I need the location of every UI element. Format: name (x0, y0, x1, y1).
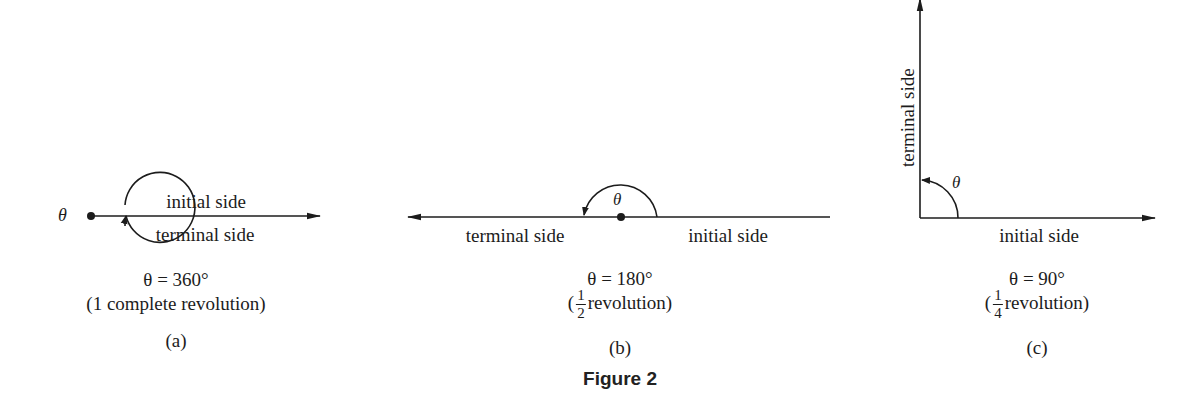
figure-title: Figure 2 (583, 368, 657, 390)
angle-equation: θ = 180° (587, 269, 652, 288)
theta-symbol: θ (613, 191, 621, 208)
vertex-dot (87, 212, 95, 220)
terminal-side-label: terminal side (156, 225, 255, 244)
terminal-side-label: terminal side (898, 68, 917, 167)
angle-description: (12revolution) (568, 288, 672, 321)
rotation-arrowhead (125, 216, 126, 226)
angle-equation: θ = 360° (143, 270, 208, 289)
theta-symbol: θ (58, 206, 67, 224)
initial-side-label: initial side (688, 226, 768, 245)
vertex-dot (617, 213, 625, 221)
initial-side-label: initial side (999, 226, 1079, 245)
angle-equation: θ = 90° (1009, 269, 1065, 288)
initial-side-label: initial side (166, 192, 246, 211)
figure-canvas: θ initial side terminal side θ = 360° (1… (0, 0, 1204, 411)
panel-caption: (b) (609, 338, 631, 357)
angle-description: (1 complete revolution) (86, 294, 265, 313)
panel-caption: (c) (1026, 338, 1047, 357)
angle-description: (14revolution) (985, 288, 1089, 321)
fraction: 12 (576, 288, 586, 321)
theta-symbol: θ (952, 174, 960, 191)
fraction: 14 (993, 288, 1003, 321)
terminal-side-label: terminal side (466, 226, 565, 245)
panel-caption: (a) (165, 331, 186, 350)
